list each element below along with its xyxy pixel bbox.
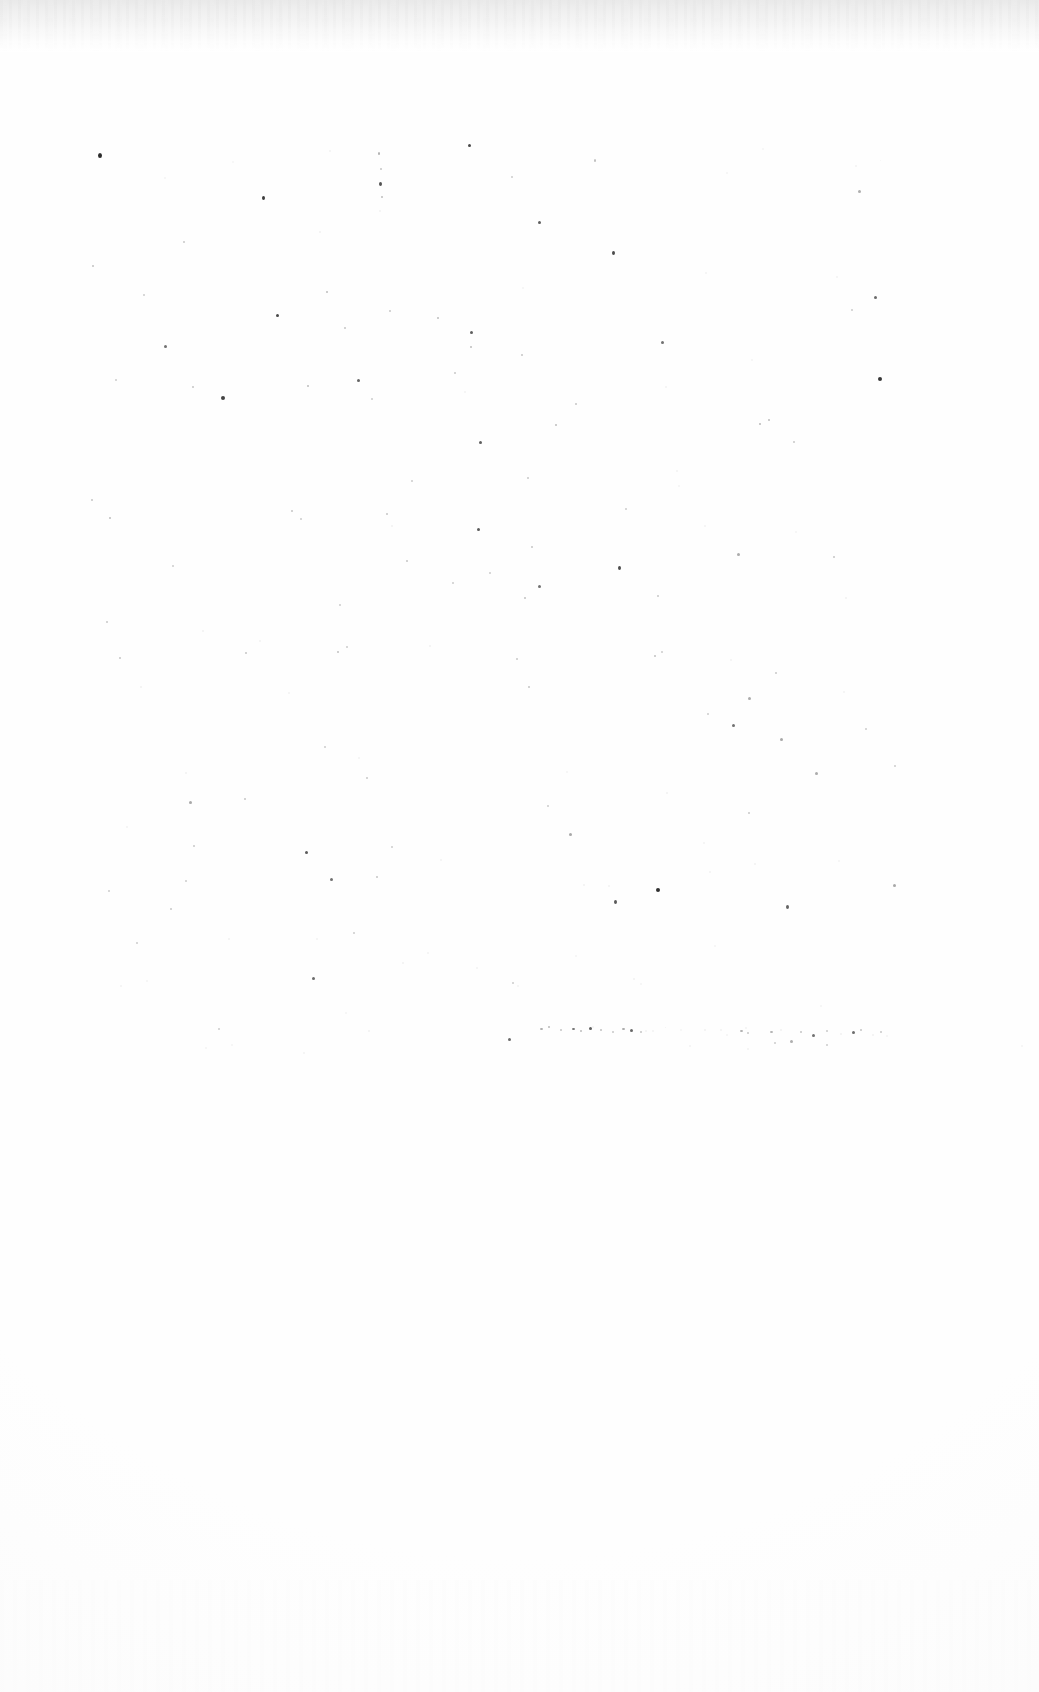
dust-speck	[140, 686, 142, 688]
dust-speck	[402, 962, 404, 964]
dust-speck	[108, 890, 110, 892]
dust-speck	[228, 938, 230, 940]
dust-speck	[1021, 1045, 1023, 1047]
bottom-paper-texture	[0, 1580, 1039, 1692]
dust-speck	[894, 765, 896, 767]
dust-speck	[747, 1048, 749, 1050]
dust-speck	[614, 900, 617, 904]
dust-speck	[880, 1031, 882, 1033]
dust-speck	[704, 525, 706, 527]
dust-speck	[540, 1028, 543, 1030]
dust-speck	[259, 640, 261, 642]
dust-speck	[893, 884, 896, 887]
dust-speck	[795, 531, 797, 533]
dust-speck	[381, 196, 383, 198]
dust-speck	[654, 655, 656, 657]
dust-speck	[303, 1052, 305, 1054]
dust-speck	[346, 646, 348, 648]
dust-speck	[872, 1034, 874, 1036]
dust-speck	[452, 582, 454, 584]
dust-speck	[307, 385, 309, 387]
dust-speck	[202, 630, 204, 632]
dust-speck	[126, 826, 128, 828]
dust-speck	[437, 317, 439, 319]
dust-speck	[531, 546, 533, 548]
dust-speck	[391, 846, 393, 848]
dust-speck	[858, 190, 861, 193]
dust-speck	[221, 396, 225, 400]
dust-speck	[115, 379, 117, 381]
dust-speck	[754, 863, 756, 865]
dust-speck	[594, 159, 596, 162]
dust-speck	[330, 878, 333, 881]
dust-speck	[737, 553, 740, 556]
dust-speck	[560, 1029, 562, 1031]
dust-speck	[427, 952, 429, 954]
dust-speck	[516, 658, 518, 660]
dust-speck	[470, 346, 472, 348]
dust-speck	[851, 309, 853, 311]
dust-speck	[622, 1028, 625, 1030]
dust-speck	[379, 210, 381, 212]
dust-speck	[726, 1034, 728, 1036]
dust-speck	[845, 597, 847, 599]
dust-speck	[747, 1032, 749, 1034]
dust-speck	[429, 645, 431, 647]
dust-speck	[380, 168, 382, 170]
dust-speck	[657, 595, 659, 597]
dust-speck	[371, 398, 373, 400]
dust-speck-layer	[0, 0, 1039, 1692]
dust-speck	[511, 176, 513, 178]
dust-speck	[329, 150, 331, 152]
dust-speck	[770, 1031, 773, 1033]
dust-speck	[732, 724, 735, 727]
dust-speck	[136, 942, 138, 944]
dust-speck	[339, 604, 341, 606]
dust-speck	[379, 182, 382, 186]
dust-speck	[376, 876, 378, 878]
dust-speck	[522, 287, 524, 289]
dust-speck	[527, 477, 529, 479]
dust-speck	[826, 1030, 828, 1032]
dust-speck	[231, 1044, 233, 1046]
dust-speck	[244, 798, 246, 800]
dust-speck	[288, 692, 290, 694]
dust-speck	[860, 1029, 862, 1031]
dust-speck	[358, 757, 360, 759]
dust-speck	[193, 845, 195, 847]
dust-speck	[820, 1005, 822, 1007]
dust-speck	[386, 513, 388, 515]
dust-speck	[843, 691, 845, 693]
dust-speck	[720, 1029, 722, 1031]
dust-speck	[479, 441, 482, 444]
dust-speck	[748, 697, 751, 700]
dust-speck	[312, 977, 315, 980]
dust-speck	[477, 528, 480, 531]
dust-speck	[838, 860, 840, 862]
dust-speck	[245, 652, 247, 654]
dust-speck	[666, 792, 668, 794]
dust-speck	[874, 296, 877, 299]
dust-speck	[440, 859, 442, 861]
dust-speck	[391, 525, 393, 527]
dust-speck	[406, 560, 408, 562]
dust-speck	[855, 165, 857, 167]
dust-speck	[840, 1033, 842, 1035]
dust-speck	[645, 1030, 647, 1032]
dust-speck	[326, 291, 328, 293]
dust-speck	[521, 354, 523, 356]
dust-speck	[547, 805, 549, 807]
dust-speck	[592, 1026, 594, 1028]
dust-speck	[378, 152, 380, 155]
dust-speck	[759, 423, 761, 425]
dust-speck	[580, 1030, 582, 1032]
dust-speck	[780, 1029, 782, 1031]
dust-speck	[344, 327, 346, 329]
dust-speck	[815, 772, 818, 775]
dust-speck	[232, 161, 234, 163]
dust-speck	[468, 144, 471, 147]
dust-speck	[865, 728, 867, 730]
dust-speck	[489, 572, 491, 574]
dust-speck	[633, 978, 635, 980]
dust-speck	[640, 1031, 642, 1033]
